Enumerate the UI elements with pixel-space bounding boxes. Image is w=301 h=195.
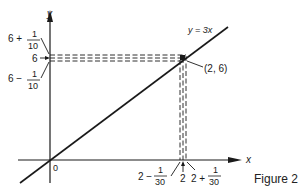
x-axis-label: x (245, 154, 252, 165)
x-center-label: 2 (180, 173, 186, 184)
figure-diagram: y x 0 y = 3x (2, 6) 6 + 1 10 6 6 − 1 10 … (0, 0, 301, 195)
y-lower-num: 1 (32, 69, 37, 79)
pointer-lower (41, 62, 49, 78)
y-lower-den: 10 (28, 81, 38, 91)
pointer-left-x (171, 162, 180, 176)
line-label: y = 3x (187, 25, 213, 35)
pointer-center-x-arrow-icon (181, 161, 185, 166)
x-right-den: 30 (209, 177, 219, 187)
pointer-point (187, 61, 203, 67)
x-left-whole: 2 − (138, 171, 152, 182)
y-upper-whole: 6 + (8, 33, 22, 44)
y-interval-dashes (50, 55, 186, 61)
y-upper-num: 1 (32, 29, 37, 39)
point-label: (2, 6) (204, 63, 227, 74)
x-left-den: 30 (155, 177, 165, 187)
figure-caption: Figure 2 (254, 172, 298, 186)
pointer-right-x (187, 162, 195, 170)
y-lower-whole: 6 − (8, 73, 22, 84)
y-center-label: 6 (32, 53, 38, 64)
x-axis-arrow-icon (228, 157, 242, 163)
pointer-upper (41, 38, 49, 54)
origin-label: 0 (53, 163, 58, 173)
x-interval-dashes (180, 56, 186, 160)
x-right-whole: 2 + (191, 173, 205, 184)
x-right-num: 1 (213, 165, 218, 175)
x-left-num: 1 (158, 165, 163, 175)
pointer-center-y-arrow-icon (45, 56, 50, 60)
y-upper-den: 10 (28, 41, 38, 51)
point-marker (180, 55, 185, 60)
y-axis-label: y (46, 8, 53, 19)
